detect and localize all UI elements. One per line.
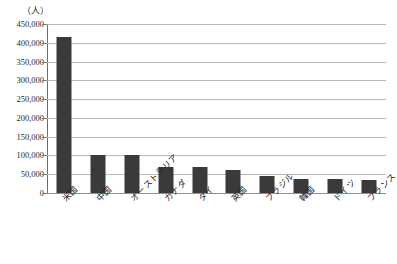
y-axis-tick-label: 200,000	[0, 114, 44, 123]
bar-slot	[47, 24, 81, 193]
bar-slot	[81, 24, 115, 193]
y-axis-tick-label: 250,000	[0, 95, 44, 104]
y-axis-tick-label: 300,000	[0, 76, 44, 85]
bar-slot	[115, 24, 149, 193]
y-axis-tick-label: 100,000	[0, 151, 44, 160]
y-axis-tick-label: 0	[0, 189, 44, 198]
y-axis-tick-label: 50,000	[0, 170, 44, 179]
bar-chart: （人） 450,000400,000350,000300,000250,0002…	[0, 0, 397, 264]
bar-slot	[284, 24, 318, 193]
plot-area	[47, 24, 386, 193]
bar-slot	[352, 24, 386, 193]
bar-slot	[183, 24, 217, 193]
y-axis-unit-label: （人）	[22, 4, 49, 17]
y-axis-tick-label: 400,000	[0, 39, 44, 48]
bar-slot	[217, 24, 251, 193]
bar	[56, 37, 71, 193]
bar-slot	[318, 24, 352, 193]
bar-slot	[250, 24, 284, 193]
y-axis-tick-label: 450,000	[0, 20, 44, 29]
y-axis-tick-label: 150,000	[0, 133, 44, 142]
y-axis-tick-label: 350,000	[0, 58, 44, 67]
